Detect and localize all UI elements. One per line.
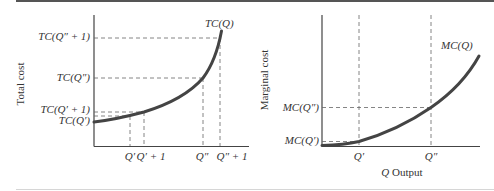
tc-curve [94, 31, 222, 122]
mc-ytick-q2: MC(Q″) [282, 101, 320, 114]
tc-ytick-q2: TC(Q″) [57, 71, 91, 84]
mc-y-axis-title: Marginal cost [258, 50, 270, 111]
mc-x-axis-title-q: Q [381, 166, 389, 178]
tc-xtick-q1: Q′ [125, 150, 136, 162]
mc-x-axis-title-text: Output [389, 166, 422, 178]
mc-xtick-q2: Q″ [425, 150, 438, 162]
mc-xtick-q1: Q′ [354, 150, 365, 162]
tc-xtick-q2: Q″ [196, 150, 209, 162]
tc-y-axis-title: Total cost [14, 63, 26, 106]
total-cost-chart: TC(Q) TC(Q″ + 1) TC(Q″) TC(Q′ + 1) TC(Q′… [14, 15, 249, 162]
mc-curve [322, 56, 479, 146]
mc-curve-label: MC(Q) [440, 39, 473, 52]
tc-xtick-q2p1: Q″ + 1 [217, 150, 248, 162]
marginal-cost-chart: MC(Q) MC(Q″) MC(Q′) Q′ Q″ Q Output Margi… [258, 15, 480, 178]
tc-ytick-q1: TC(Q′) [59, 114, 90, 127]
mc-x-axis-title: Q Output [381, 166, 422, 178]
tc-curve-label: TC(Q) [205, 17, 234, 30]
cost-charts: TC(Q) TC(Q″ + 1) TC(Q″) TC(Q′ + 1) TC(Q′… [0, 0, 494, 191]
tc-ytick-q2p1: TC(Q″ + 1) [38, 30, 90, 43]
tc-xtick-q1p1: Q′ + 1 [137, 150, 166, 162]
mc-ytick-q1: MC(Q′) [284, 134, 320, 147]
